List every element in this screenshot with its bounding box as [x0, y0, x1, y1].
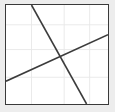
plot-frame — [5, 4, 109, 105]
chart-thumbnail — [0, 0, 115, 112]
grid-lines — [6, 5, 108, 104]
series-descending-line — [32, 5, 87, 104]
data-series — [6, 5, 108, 104]
plot-canvas — [6, 5, 108, 104]
series-ascending-line — [6, 35, 108, 82]
